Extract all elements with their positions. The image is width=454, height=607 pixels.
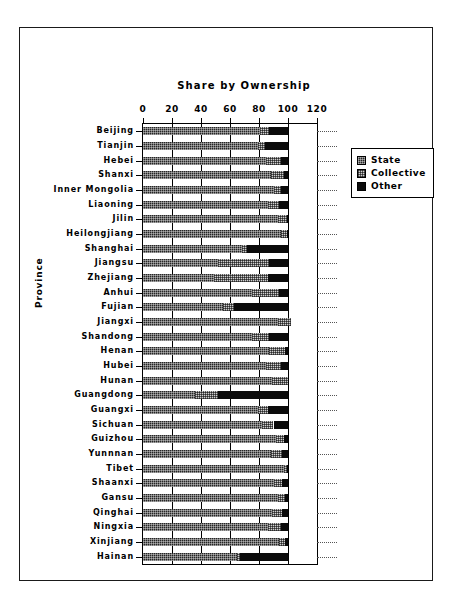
bar-segment-state <box>143 435 276 443</box>
bar-row: Shanghai <box>143 245 317 253</box>
bar-segment-other <box>282 479 288 487</box>
y-axis-label-yunnnan: Yunnnan <box>89 449 134 459</box>
bar-segment-other <box>282 509 288 517</box>
bar-segment-other <box>269 127 288 135</box>
bar-segment-state <box>143 142 258 150</box>
bar-segment-state <box>143 230 281 238</box>
legend-item-collective: Collective <box>357 167 426 179</box>
y-axis-label-qinghai: Qinghai <box>93 508 134 518</box>
bar-segment-collective <box>268 201 280 209</box>
bar-row: Jiangsu <box>143 259 317 267</box>
y-axis-label-tibet: Tibet <box>106 464 134 474</box>
x-axis-tick-label: 40 <box>194 104 208 114</box>
bar-segment-state <box>143 362 266 370</box>
y-axis-tick <box>136 219 143 220</box>
bar-segment-collective <box>274 186 281 194</box>
bar-segment-other <box>269 333 288 341</box>
row-leader <box>317 175 337 177</box>
row-leader <box>317 278 337 280</box>
bar-segment-other <box>265 142 288 150</box>
row-leader <box>317 527 337 529</box>
bar-segment-state <box>143 201 268 209</box>
row-leader <box>317 131 337 133</box>
y-axis-label-inner-mongolia: Inner Mongolia <box>54 185 134 195</box>
bar-row: Xinjiang <box>143 538 317 546</box>
row-leader <box>317 469 337 471</box>
bar-segment-collective <box>266 157 281 165</box>
y-axis-label-jiangsu: Jiangsu <box>95 258 134 268</box>
bar-segment-other <box>285 347 288 355</box>
bar-segment-state <box>143 347 269 355</box>
y-axis-tick <box>136 205 143 206</box>
bar-segment-other <box>281 157 288 165</box>
bar-segment-collective <box>276 435 283 443</box>
y-axis-tick <box>136 161 143 162</box>
x-axis-tick-label: 60 <box>223 104 237 114</box>
chart-title: Share by Ownership <box>20 80 434 91</box>
y-axis-label-fujian: Fujian <box>101 302 134 312</box>
bar-segment-other <box>281 362 288 370</box>
y-axis-tick <box>136 322 143 323</box>
chart-legend: StateCollectiveOther <box>351 148 434 198</box>
y-axis-label-hebei: Hebei <box>103 156 134 166</box>
y-axis-tick <box>136 337 143 338</box>
bar-segment-other <box>247 245 288 253</box>
y-axis-label-anhui: Anhui <box>103 288 134 298</box>
row-leader <box>317 439 337 441</box>
y-axis-tick <box>136 263 143 264</box>
bar-row: Shandong <box>143 333 317 341</box>
legend-swatch-state <box>357 156 366 165</box>
row-leader <box>317 542 337 544</box>
x-axis-tick <box>172 118 173 124</box>
y-axis-tick <box>136 395 143 396</box>
bar-segment-collective <box>266 362 281 370</box>
row-leader <box>317 366 337 368</box>
bar-row: Qinghai <box>143 509 317 517</box>
legend-swatch-other <box>357 182 366 191</box>
x-axis-tick <box>317 118 318 124</box>
plot-area: 020406080100120 BeijingTianjinHebeiShanx… <box>142 123 318 565</box>
row-leader <box>317 307 337 309</box>
y-axis-tick <box>136 307 143 308</box>
bar-row: Guangxi <box>143 406 317 414</box>
row-leader <box>317 337 337 339</box>
bar-segment-other <box>274 421 289 429</box>
y-axis-label-heilongjiang: Heilongjiang <box>66 229 134 239</box>
y-axis-label-henan: Henan <box>101 346 134 356</box>
y-axis-tick <box>136 557 143 558</box>
legend-label-collective: Collective <box>371 168 426 178</box>
bar-segment-state <box>143 406 258 414</box>
bar-row: Beijing <box>143 127 317 135</box>
row-leader <box>317 219 337 221</box>
bar-segment-state <box>143 494 278 502</box>
bar-segment-state <box>143 450 271 458</box>
bar-segment-collective <box>214 274 268 282</box>
bar-segment-collective <box>252 333 269 341</box>
bar-segment-state <box>143 333 252 341</box>
y-axis-tick <box>136 234 143 235</box>
y-axis-title: Province <box>34 258 44 308</box>
y-axis-tick <box>136 439 143 440</box>
y-axis-tick <box>136 351 143 352</box>
bar-segment-other <box>282 450 288 458</box>
y-axis-tick <box>136 366 143 367</box>
bar-segment-collective <box>272 509 282 517</box>
y-axis-tick <box>136 410 143 411</box>
bar-segment-other <box>287 215 288 223</box>
bar-segment-collective <box>278 215 287 223</box>
row-leader <box>317 395 337 397</box>
bar-segment-collective <box>274 479 283 487</box>
row-leader <box>317 205 337 207</box>
row-leader <box>317 557 337 559</box>
y-axis-label-tianjin: Tianjin <box>97 141 134 151</box>
bar-row: Gansu <box>143 494 317 502</box>
bar-segment-collective <box>258 142 265 150</box>
bar-row: Ningxia <box>143 523 317 531</box>
bar-segment-collective <box>218 259 269 267</box>
bar-segment-state <box>143 127 260 135</box>
y-axis-label-shandong: Shandong <box>82 332 134 342</box>
row-leader <box>317 513 337 515</box>
bar-segment-other <box>268 274 288 282</box>
bar-segment-state <box>143 289 252 297</box>
x-axis-tick <box>288 118 289 124</box>
